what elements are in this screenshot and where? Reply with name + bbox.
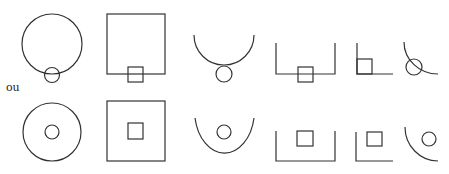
inner-circle [422, 132, 436, 146]
outer-quarter-arc [404, 42, 438, 74]
outer-square [107, 14, 165, 74]
inner-square [297, 131, 313, 146]
figure-corner-with-square-inside [356, 132, 393, 161]
figure-corner-with-square-in-corner [357, 43, 393, 74]
outer-circle [23, 103, 81, 161]
inner-circle [45, 68, 60, 83]
outer-arc [195, 118, 254, 153]
figure-open-box-with-square-inside [276, 131, 335, 161]
outer-open-box [276, 43, 335, 74]
diagram-canvas [0, 0, 449, 174]
inner-circle [45, 125, 59, 139]
figure-circle-with-circle-inside [23, 103, 81, 161]
separator-label-ou: ou [6, 81, 20, 94]
inner-circle [217, 125, 231, 139]
outer-square [107, 101, 165, 161]
inner-circle [406, 59, 422, 75]
outer-arc [194, 35, 254, 65]
inner-square [367, 132, 382, 146]
row-2 [23, 101, 438, 161]
row-1 [22, 14, 438, 83]
outer-circle [22, 14, 82, 74]
figure-quarter-arc-with-circle-inside [405, 127, 438, 161]
figure-quarter-arc-with-circle-on-edge [404, 42, 438, 75]
figure-arc-with-circle-inside [195, 118, 254, 153]
figure-square-with-square-inside [107, 101, 165, 161]
inner-square [128, 123, 143, 139]
figure-circle-with-circle-on-edge [22, 14, 82, 83]
figure-open-box-with-square-on-edge [276, 43, 335, 82]
inner-square [357, 59, 372, 74]
inner-circle [216, 66, 232, 82]
figure-square-with-square-on-edge [107, 14, 165, 82]
figure-arc-with-circle-on-edge [194, 35, 254, 82]
